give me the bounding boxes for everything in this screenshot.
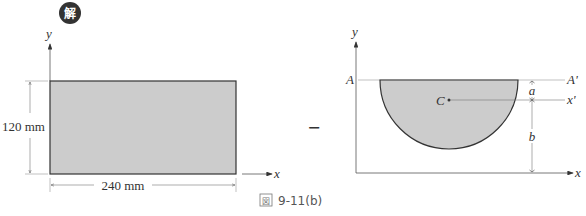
minus-operator: − — [307, 118, 320, 137]
rectangle-area — [50, 81, 236, 174]
height-dimension-label: 120 mm — [2, 119, 45, 134]
caption-label: 9-11(b) — [278, 194, 322, 208]
dimension-a-label: a — [529, 83, 536, 98]
left-y-label: y — [44, 26, 52, 41]
semicircle-area — [380, 80, 518, 149]
right-y-label: y — [350, 24, 358, 39]
badge-label: 解 — [64, 6, 76, 21]
left-rectangle-figure: y x 120 mm 240 mm — [2, 26, 280, 193]
right-semicircle-figure: y x A A' C x' a b — [345, 24, 581, 180]
figure-caption: 図 9-11(b) — [260, 194, 322, 208]
centroid-axis-label: x' — [566, 92, 576, 107]
left-x-label: x — [273, 166, 280, 181]
figure-9-11b: 解 y x 120 mm 240 mm − y x A A' — [0, 0, 586, 216]
width-dimension-label: 240 mm — [102, 178, 145, 193]
dimension-b-label: b — [529, 129, 536, 144]
centroid-label: C — [436, 93, 445, 108]
solution-badge: 解 — [59, 2, 81, 24]
label-A: A — [345, 72, 354, 87]
caption-icon: 図 — [262, 197, 270, 206]
label-A-prime: A' — [566, 72, 578, 87]
right-x-label: x — [574, 165, 581, 180]
